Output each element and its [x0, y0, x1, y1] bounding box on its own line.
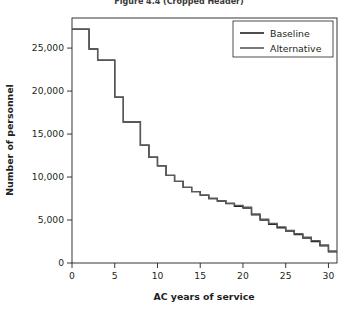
x-tick-label: 10: [152, 270, 164, 281]
y-tick-label: 15,000: [32, 128, 64, 139]
y-axis-title: Number of personnel: [4, 84, 15, 196]
x-tick-label: 15: [194, 270, 206, 281]
chart-canvas: 05,00010,00015,00020,00025,000 051015202…: [0, 0, 358, 317]
legend-label-baseline: Baseline: [270, 28, 310, 39]
y-tick-label: 10,000: [32, 171, 64, 182]
y-axis-ticks: 05,00010,00015,00020,00025,000: [32, 42, 72, 268]
y-tick-label: 25,000: [32, 42, 64, 53]
legend-label-alternative: Alternative: [270, 43, 322, 54]
figure-title: Figure 4.4 (Cropped Header): [0, 0, 358, 6]
y-tick-label: 5,000: [38, 214, 64, 225]
x-tick-label: 0: [69, 270, 75, 281]
figure-container: Figure 4.4 (Cropped Header) 05,00010,000…: [0, 0, 358, 317]
y-tick-label: 20,000: [32, 85, 64, 96]
x-tick-label: 25: [280, 270, 292, 281]
chart-legend: BaselineAlternative: [233, 21, 333, 57]
x-tick-label: 20: [237, 270, 249, 281]
x-tick-label: 5: [112, 270, 118, 281]
x-tick-label: 30: [323, 270, 335, 281]
x-axis-title: AC years of service: [153, 291, 254, 302]
x-axis-ticks: 051015202530: [69, 263, 334, 281]
y-tick-label: 0: [58, 257, 64, 268]
